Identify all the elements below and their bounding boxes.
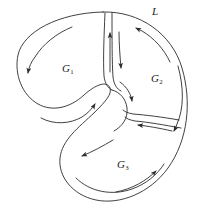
central-tongue-curve (112, 90, 127, 131)
math-figure: L G1 G2 G3 (0, 0, 201, 210)
g3-arrow-bottom-right (116, 171, 156, 192)
region-label-g2-subscript: 2 (159, 78, 162, 85)
figure-canvas (0, 0, 201, 210)
tongue-arrow-down (120, 82, 132, 101)
outer-boundary-curve (17, 12, 187, 201)
region-label-g3-base: G (117, 158, 125, 170)
slit-one-arrow-down (119, 32, 121, 68)
g2-arrow-right-edge (174, 66, 182, 131)
slit-two-upper-edge (123, 110, 179, 120)
g2-arrow-top-right (136, 28, 170, 62)
region-label-g1-base: G (62, 62, 70, 74)
slit-one-left-edge (104, 13, 112, 90)
g3-arrow-upper-left (82, 140, 113, 156)
region-label-g3: G3 (117, 159, 128, 170)
region-label-g2: G2 (151, 73, 162, 84)
region-label-g1: G1 (62, 63, 73, 74)
region-label-g2-base: G (151, 72, 159, 84)
region-label-g1-subscript: 1 (70, 68, 73, 75)
boundary-label-L: L (152, 6, 158, 17)
region-label-g3-subscript: 3 (125, 164, 128, 171)
